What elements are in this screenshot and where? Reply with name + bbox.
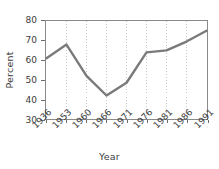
y-tick-label: 60 bbox=[26, 56, 37, 65]
data-series-line bbox=[46, 21, 207, 119]
series-percent-line bbox=[46, 31, 206, 96]
y-tick-label: 40 bbox=[26, 96, 37, 105]
line-chart: Percent 304050607080 1936195319601966197… bbox=[0, 0, 219, 169]
y-tick-label: 50 bbox=[26, 76, 37, 85]
y-tick-label: 80 bbox=[26, 16, 37, 25]
x-axis-title: Year bbox=[0, 151, 219, 162]
y-tick-label: 70 bbox=[26, 36, 37, 45]
plot-area bbox=[45, 20, 208, 120]
